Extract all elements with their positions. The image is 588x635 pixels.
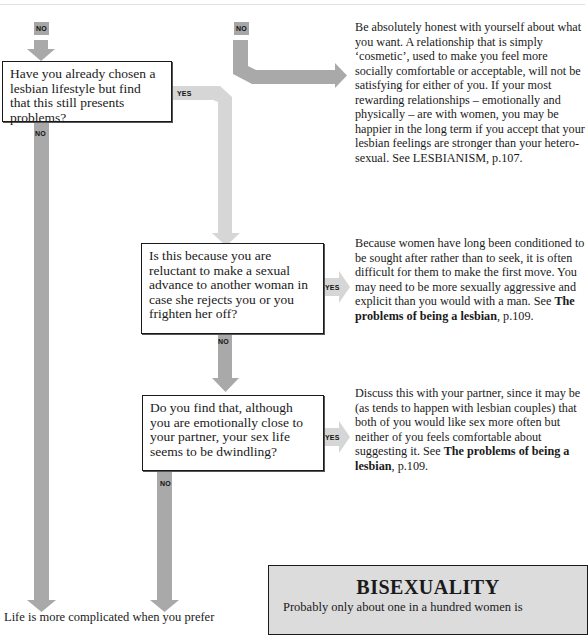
q2-no-label: NO [218,338,229,345]
sidebar-title: BISEXUALITY [269,576,587,599]
no-label-top-mid: NO [234,22,249,35]
sidebar-body: Probably only about one in a hundred wom… [283,600,523,615]
question-text: Do you find that, although you are emoti… [150,400,303,459]
question-text: Have you already chosen a lesbian lifest… [10,66,155,125]
bottom-result-text: Life is more complicated when you prefer [4,610,214,625]
q1-no-label: NO [35,130,46,137]
arrow-bent-right-icon [233,40,347,88]
answer-text: Be absolutely honest with yourself about… [355,20,585,165]
question-box-1: Have you already chosen a lesbian lifest… [2,61,172,122]
no-label-top-left: NO [34,22,49,35]
answer-3: Discuss this with your partner, since it… [355,386,587,473]
page-reference: , p.109. [497,309,534,323]
arrow-bent-down-icon [170,86,240,246]
question-text: Is this because you are reluctant to mak… [149,248,308,321]
answer-text: Because women have long been conditioned… [355,236,584,308]
question-box-2: Is this because you are reluctant to mak… [141,243,324,334]
page-reference: , p.109. [392,459,429,473]
answer-1: Be absolutely honest with yourself about… [355,20,587,165]
question-box-3: Do you find that, although you are emoti… [142,395,324,471]
arrow-down-icon [27,40,55,61]
q2-yes-label: YES [325,284,340,291]
arrow-down-icon [27,122,56,612]
answer-2: Because women have long been conditioned… [355,236,587,323]
arrow-down-icon [150,470,179,612]
q3-no-label: NO [160,480,171,487]
bisexuality-sidebar: BISEXUALITY Probably only about one in a… [268,565,588,635]
q3-yes-label: YES [325,434,340,441]
q1-yes-label: YES [177,90,192,97]
